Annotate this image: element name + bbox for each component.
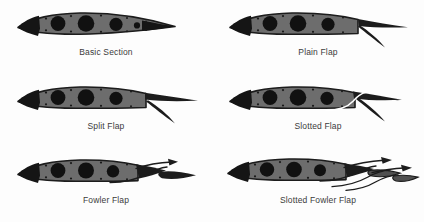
hinged-flap [358,19,408,48]
flap-split-plate [146,100,175,123]
arrow-head-lower [401,165,412,172]
arrow-head [168,159,178,166]
panel-caption: Slotted Flap [212,121,424,132]
split-lower-panel [145,93,198,124]
leading-edge-nose [18,90,40,110]
panel-caption: Split Flap [0,121,212,132]
panel-split-flap: Split Flap [0,74,212,148]
panel-caption: Basic Section [0,47,212,58]
fowler-main-flap-element [393,175,418,181]
panel-caption: Fowler Flap [0,195,212,206]
leading-edge-nose [230,16,252,36]
translation-arrow [136,159,178,169]
flap-deflected-element [358,26,385,48]
airfoil-body [18,160,138,183]
panel-caption: Plain Flap [212,47,424,58]
flap-vane-upper [353,92,402,101]
arrow-head-upper [381,157,392,164]
panel-fowler-flap: Fowler Flap [0,148,212,222]
flap-upper-surface-fixed [145,93,198,101]
panel-caption: Slotted Fowler Flap [212,195,424,206]
flap-upper-fairing [358,19,408,28]
slotted-flap-element [353,92,402,122]
panel-slotted-fowler-flap: Slotted Fowler Flap [212,148,424,222]
panel-slotted-flap: Slotted Flap [212,74,424,148]
leading-edge-nose [228,162,250,182]
flap-main-element [356,98,385,121]
flap-types-diagram: Basic Section Plain F [0,0,424,222]
panel-basic-section: Basic Section [0,0,212,74]
leading-edge-nose [18,163,40,183]
airfoil-body [18,13,175,36]
panel-plain-flap: Plain Flap [212,0,424,74]
leading-edge-nose [18,16,40,36]
fowler-flap-airfoil [158,171,196,179]
leading-edge-nose [230,90,252,110]
